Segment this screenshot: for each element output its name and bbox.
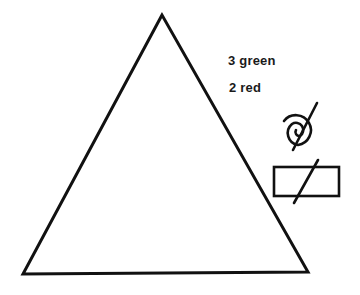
label-3-green: 3 green	[228, 53, 276, 68]
label-2-red: 2 red	[229, 80, 261, 95]
spiral-slash-icon	[284, 103, 317, 150]
rectangle-slash-icon	[274, 160, 339, 203]
diagram-canvas	[0, 0, 360, 295]
